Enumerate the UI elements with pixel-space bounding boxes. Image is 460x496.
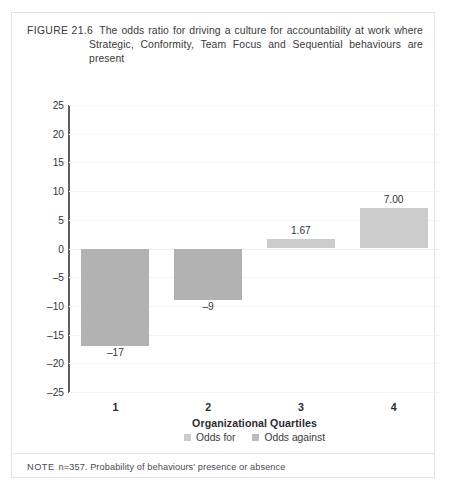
- y-axis-tick-label: 25: [34, 100, 64, 111]
- legend-swatch-icon: [184, 434, 191, 441]
- y-axis-tick-label: –25: [34, 387, 64, 398]
- bar-value-label: 7.00: [360, 194, 428, 205]
- legend-label: Odds for: [196, 432, 236, 443]
- x-axis-title: Organizational Quartiles: [69, 417, 440, 429]
- gridline: [69, 134, 440, 135]
- x-axis-tick-label: 2: [174, 401, 242, 413]
- gridline: [69, 191, 440, 192]
- y-axis-tick-label: –20: [34, 358, 64, 369]
- figure-caption-text: The odds ratio for driving a culture for…: [89, 24, 423, 67]
- gridline: [69, 392, 440, 393]
- legend-swatch-icon: [252, 434, 259, 441]
- legend-label: Odds against: [264, 432, 325, 443]
- bar-quartile-2: [174, 249, 242, 301]
- bar-quartile-4: [360, 208, 428, 248]
- x-axis-tick-label: 3: [267, 401, 335, 413]
- legend-item-1[interactable]: Odds for: [184, 432, 236, 443]
- bar-quartile-1: [81, 249, 149, 347]
- chart-legend: Odds forOdds against: [69, 432, 440, 443]
- note-text: n=357. Probability of behaviours' presen…: [59, 462, 286, 472]
- x-axis-tick-label: 4: [360, 401, 428, 413]
- y-axis-tick-label: 10: [34, 186, 64, 197]
- figure-caption: FIGURE 21.6 The odds ratio for driving a…: [27, 24, 423, 67]
- y-axis-tick-label: 20: [34, 128, 64, 139]
- bar-value-label: –17: [81, 347, 149, 358]
- figure-number-label: FIGURE 21.6: [27, 24, 99, 38]
- y-axis-tick-label: –10: [34, 300, 64, 311]
- y-axis-tick-label: 0: [34, 243, 64, 254]
- bar-quartile-3: [267, 239, 335, 249]
- chart-plot-area: –17–91.677.00: [69, 105, 440, 392]
- y-axis-tick-label: –15: [34, 329, 64, 340]
- gridline: [69, 162, 440, 163]
- y-axis-tick-label: –5: [34, 272, 64, 283]
- note-label: NOTE: [27, 462, 59, 472]
- figure-note: NOTEn=357. Probability of behaviours' pr…: [27, 462, 423, 472]
- y-axis-tick-label: 5: [34, 214, 64, 225]
- y-axis-tick-labels: 2520151050–5–10–15–20–25: [26, 105, 64, 392]
- gridline: [69, 363, 440, 364]
- y-axis-tick-label: 15: [34, 157, 64, 168]
- note-divider: [13, 453, 435, 454]
- figure-container: FIGURE 21.6 The odds ratio for driving a…: [11, 12, 435, 478]
- bar-value-label: 1.67: [267, 225, 335, 236]
- bar-value-label: –9: [174, 301, 242, 312]
- legend-item-2[interactable]: Odds against: [252, 432, 325, 443]
- x-axis-tick-label: 1: [81, 401, 149, 413]
- gridline: [69, 105, 440, 106]
